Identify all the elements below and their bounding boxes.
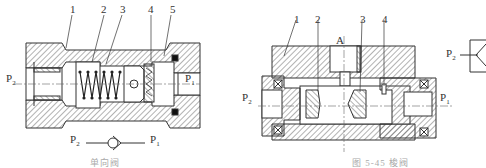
caption-left: 单向阀 xyxy=(90,156,120,168)
port-label-a: A xyxy=(336,35,344,46)
symbol-port-p1: P1 xyxy=(150,134,160,148)
shuttle-valve-section xyxy=(258,20,452,152)
shuttle-valve-symbol xyxy=(460,40,486,72)
part-label-3: 3 xyxy=(360,14,366,25)
part-label-4: 4 xyxy=(148,4,154,15)
check-valve-symbol xyxy=(86,136,145,150)
symbol-port-p2: P2 xyxy=(70,134,80,148)
part-label-5: 5 xyxy=(170,4,176,15)
caption-right: 图 5-45 梭阀 xyxy=(352,156,409,168)
symbol-port-p2: P2 xyxy=(446,48,456,62)
part-label-3: 3 xyxy=(120,4,126,15)
part-label-2: 2 xyxy=(315,14,321,25)
part-label-4: 4 xyxy=(382,14,388,25)
part-label-1: 1 xyxy=(294,14,300,25)
port-label-p1: P1 xyxy=(185,73,195,87)
part-label-2: 2 xyxy=(101,4,107,15)
part-label-1: 1 xyxy=(70,4,76,15)
port-label-p2: P2 xyxy=(6,73,16,87)
port-label-p2: P2 xyxy=(242,92,252,106)
port-label-p1: P1 xyxy=(440,92,450,106)
check-valve-section xyxy=(14,15,200,128)
